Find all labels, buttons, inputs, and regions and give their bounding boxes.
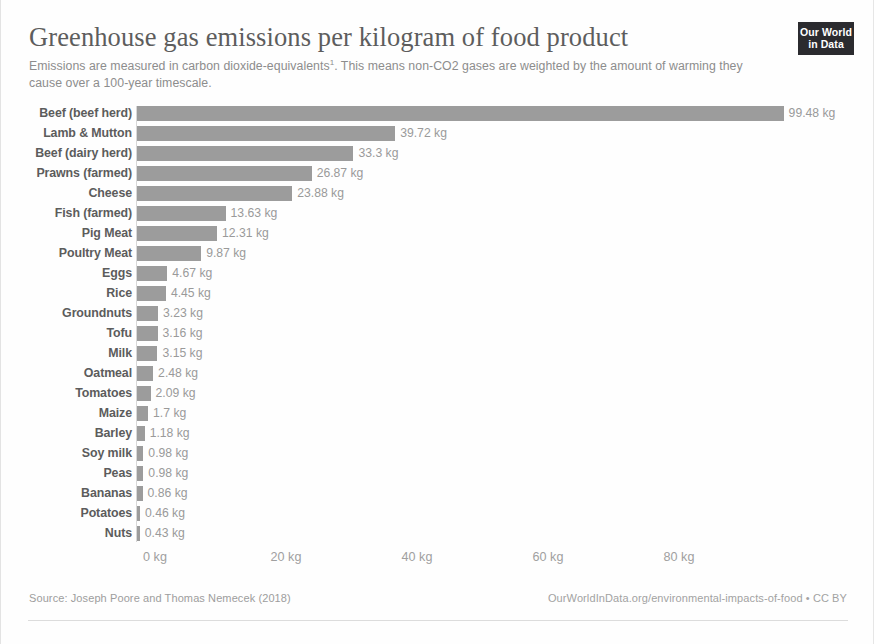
bar-value-label: 0.98 kg: [143, 466, 188, 481]
x-axis: 0 kg20 kg40 kg60 kg80 kg: [1, 548, 874, 568]
footnote-marker: 1: [330, 58, 335, 67]
bar-category-label: Milk: [1, 346, 132, 361]
bar-category-label: Barley: [1, 426, 132, 441]
x-axis-tick: 20 kg: [271, 548, 302, 566]
bar-wrapper: 3.23 kg: [137, 306, 203, 321]
bar-row: Nuts0.43 kg: [1, 526, 874, 546]
bar-wrapper: 13.63 kg: [137, 206, 277, 221]
bar[interactable]: [137, 186, 292, 201]
bar-wrapper: 0.46 kg: [137, 506, 185, 521]
bar-value-label: 9.87 kg: [201, 246, 246, 261]
bar-category-label: Soy milk: [1, 446, 132, 461]
x-axis-tick: 80 kg: [664, 548, 695, 566]
x-axis-tick: 40 kg: [402, 548, 433, 566]
bar[interactable]: [137, 146, 353, 161]
bar-category-label: Potatoes: [1, 506, 132, 521]
bar-value-label: 13.63 kg: [226, 206, 278, 221]
chart-footer: Source: Joseph Poore and Thomas Nemecek …: [29, 592, 847, 608]
bar-row: Lamb & Mutton39.72 kg: [1, 126, 874, 146]
bar[interactable]: [137, 286, 166, 301]
bar[interactable]: [137, 246, 201, 261]
chart-subtitle-text: Emissions are measured in carbon dioxide…: [29, 59, 743, 90]
bar[interactable]: [137, 366, 153, 381]
bar-value-label: 33.3 kg: [353, 146, 398, 161]
bar-row: Beef (dairy herd)33.3 kg: [1, 146, 874, 166]
bar-value-label: 3.16 kg: [158, 326, 203, 341]
source-note: Source: Joseph Poore and Thomas Nemecek …: [29, 592, 291, 604]
bar-chart-plot: Beef (beef herd)99.48 kgLamb & Mutton39.…: [1, 106, 874, 542]
bar[interactable]: [137, 426, 145, 441]
bar[interactable]: [137, 326, 158, 341]
bar-category-label: Nuts: [1, 526, 132, 541]
bar-wrapper: 0.98 kg: [137, 446, 188, 461]
bar-category-label: Tofu: [1, 326, 132, 341]
bar-category-label: Eggs: [1, 266, 132, 281]
x-axis-tick: 60 kg: [533, 548, 564, 566]
bar[interactable]: [137, 166, 312, 181]
bar[interactable]: [137, 106, 784, 121]
bar-row: Potatoes0.46 kg: [1, 506, 874, 526]
bar-row: Pig Meat12.31 kg: [1, 226, 874, 246]
footer-divider: [28, 620, 848, 621]
bar-wrapper: 0.43 kg: [137, 526, 185, 541]
bar-value-label: 3.15 kg: [157, 346, 202, 361]
cut-off-footnote: [41, 634, 841, 641]
bar-row: Beef (beef herd)99.48 kg: [1, 106, 874, 126]
bar-row: Eggs4.67 kg: [1, 266, 874, 286]
bar-category-label: Poultry Meat: [1, 246, 132, 261]
bar-value-label: 4.67 kg: [167, 266, 212, 281]
bar[interactable]: [137, 226, 217, 241]
bar-value-label: 0.43 kg: [140, 526, 185, 541]
bar-row: Barley1.18 kg: [1, 426, 874, 446]
bar-wrapper: 12.31 kg: [137, 226, 269, 241]
bar[interactable]: [137, 406, 148, 421]
bar-category-label: Beef (beef herd): [1, 106, 132, 121]
bar-value-label: 0.86 kg: [143, 486, 188, 501]
page-title: Greenhouse gas emissions per kilogram of…: [29, 22, 769, 53]
bar-row: Groundnuts3.23 kg: [1, 306, 874, 326]
bar-row: Tomatoes2.09 kg: [1, 386, 874, 406]
bar-wrapper: 9.87 kg: [137, 246, 246, 261]
bar-category-label: Groundnuts: [1, 306, 132, 321]
bar-category-label: Lamb & Mutton: [1, 126, 132, 141]
our-world-in-data-logo[interactable]: Our World in Data: [798, 22, 854, 55]
bar-wrapper: 2.09 kg: [137, 386, 196, 401]
chart-page: Greenhouse gas emissions per kilogram of…: [0, 0, 874, 644]
bar-value-label: 2.09 kg: [151, 386, 196, 401]
bar-value-label: 4.45 kg: [166, 286, 211, 301]
bar-category-label: Beef (dairy herd): [1, 146, 132, 161]
bar-wrapper: 4.67 kg: [137, 266, 212, 281]
bar[interactable]: [137, 206, 226, 221]
bar-wrapper: 4.45 kg: [137, 286, 211, 301]
x-axis-tick: 0 kg: [143, 548, 167, 566]
bar[interactable]: [137, 266, 167, 281]
bar-category-label: Fish (farmed): [1, 206, 132, 221]
bar-value-label: 1.18 kg: [145, 426, 190, 441]
bar-value-label: 0.98 kg: [143, 446, 188, 461]
bar-row: Oatmeal2.48 kg: [1, 366, 874, 386]
bar-category-label: Cheese: [1, 186, 132, 201]
logo-line-2: in Data: [798, 38, 854, 50]
bar-wrapper: 33.3 kg: [137, 146, 398, 161]
bar-category-label: Tomatoes: [1, 386, 132, 401]
chart-header: Greenhouse gas emissions per kilogram of…: [29, 22, 769, 91]
bar-value-label: 12.31 kg: [217, 226, 269, 241]
bar[interactable]: [137, 306, 158, 321]
bar-wrapper: 26.87 kg: [137, 166, 363, 181]
bar-row: Rice4.45 kg: [1, 286, 874, 306]
bar-row: Bananas0.86 kg: [1, 486, 874, 506]
bar[interactable]: [137, 386, 151, 401]
footer-link[interactable]: OurWorldInData.org/environmental-impacts…: [548, 592, 847, 604]
bar-row: Milk3.15 kg: [1, 346, 874, 366]
bar[interactable]: [137, 126, 395, 141]
bar-row: Tofu3.16 kg: [1, 326, 874, 346]
chart-subtitle: Emissions are measured in carbon dioxide…: [29, 58, 755, 91]
bar-value-label: 2.48 kg: [153, 366, 198, 381]
bar-row: Fish (farmed)13.63 kg: [1, 206, 874, 226]
bar-wrapper: 1.18 kg: [137, 426, 190, 441]
bar-value-label: 26.87 kg: [312, 166, 364, 181]
bar-value-label: 39.72 kg: [395, 126, 447, 141]
bar[interactable]: [137, 346, 157, 361]
bar-category-label: Bananas: [1, 486, 132, 501]
bar-category-label: Peas: [1, 466, 132, 481]
